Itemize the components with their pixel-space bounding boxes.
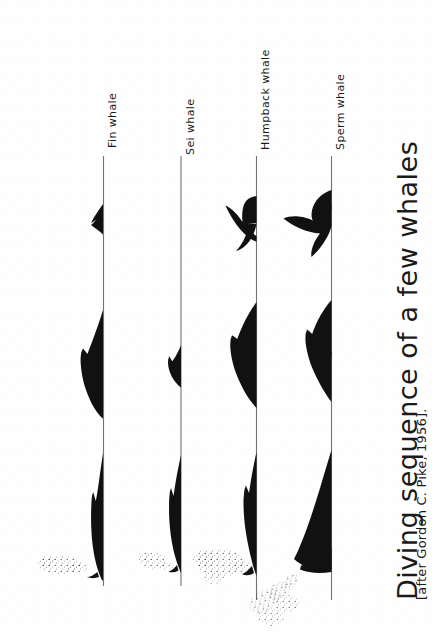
fin-whale-stage-surface [38, 453, 103, 581]
fin-whale-stage-roll [81, 310, 103, 419]
sei-whale-blow [138, 552, 174, 570]
fin-whale-blow [38, 556, 88, 574]
sei-whale-stage-surface [138, 455, 181, 573]
sperm-whale-blow [245, 571, 302, 626]
figure-citation: [after Gordon C. Pike, 1956]. [414, 408, 429, 600]
sei-whale-stage-roll [168, 345, 181, 388]
whale-diving-figure: Fin whale Sei whale Humpback whale Sperm… [0, 0, 436, 635]
fin-whale-fluke-tip [87, 572, 99, 578]
fin-whale-body-roll [81, 310, 103, 419]
fin-whale-body-surface [91, 453, 103, 581]
humpback-whale-blow [193, 549, 254, 584]
sperm-whale-body-roll [305, 300, 331, 402]
sperm-whale-stage-roll [305, 300, 331, 402]
sperm-whale-stage-surface [245, 450, 332, 626]
sei-whale-sequence [138, 345, 181, 573]
fin-whale-sequence [38, 204, 103, 581]
species-label-sei-whale: Sei whale [184, 99, 197, 155]
species-label-humpback-whale: Humpback whale [259, 49, 272, 150]
fin-whale-stage-submerged [91, 204, 103, 235]
sperm-whale-flukes [284, 190, 332, 257]
humpback-whale-sequence [193, 196, 257, 584]
humpback-whale-flukes [226, 196, 257, 251]
humpback-whale-body-surface [244, 452, 257, 576]
humpback-whale-stage-roll [230, 302, 256, 408]
humpback-whale-body-roll [230, 302, 256, 408]
sperm-whale-sequence [245, 190, 332, 626]
sei-whale-body-surface [169, 455, 181, 573]
sei-whale-dorsal-fin-roll [168, 345, 181, 388]
sperm-whale-fluke-shape [284, 190, 332, 257]
species-label-fin-whale: Fin whale [106, 93, 119, 148]
humpback-whale-stage-surface [193, 452, 257, 584]
species-label-sperm-whale: Sperm whale [334, 74, 347, 150]
whale-illustration [0, 0, 436, 635]
